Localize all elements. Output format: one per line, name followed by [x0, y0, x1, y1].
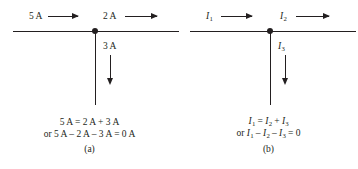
branch-current-arrow-icon	[110, 55, 111, 79]
junction-node-dot	[267, 28, 273, 34]
equation-line-1: 5 A = 2 A + 3 A	[0, 117, 179, 129]
outgoing-current-label: 2 A	[103, 12, 116, 22]
vertical-branch-wire	[95, 31, 96, 105]
vertical-branch-wire	[270, 31, 271, 105]
outgoing-current-label: I2	[280, 12, 287, 22]
junction-node-dot	[92, 28, 98, 34]
outgoing-current-arrow-icon	[296, 16, 329, 17]
branch-current-label: 3 A	[103, 42, 116, 52]
incoming-current-label: I1	[206, 12, 213, 22]
equation-line-2: or I1 – I2 – I3 = 0	[179, 128, 358, 140]
branch-current-label: I3	[278, 42, 285, 52]
outgoing-current-arrow-icon	[125, 16, 157, 17]
panel-a: 5 A 2 A 3 A 5 A = 2 A + 3 A or 5 A – 2 A…	[0, 0, 179, 169]
panel-b: I1 I2 I3 I1 = I2 + I3 or I1 – I2 – I3 = …	[179, 0, 358, 169]
kirchhoff-current-law-figure: 5 A 2 A 3 A 5 A = 2 A + 3 A or 5 A – 2 A…	[0, 0, 358, 169]
incoming-current-arrow-icon	[48, 16, 78, 17]
panel-tag-a: (a)	[0, 144, 179, 155]
panel-tag-b: (b)	[179, 144, 358, 155]
equation-line-1: I1 = I2 + I3	[179, 116, 358, 128]
branch-current-arrow-icon	[285, 55, 286, 79]
horizontal-wire	[190, 31, 356, 32]
incoming-current-label: 5 A	[29, 12, 42, 22]
incoming-current-arrow-icon	[221, 16, 252, 17]
equation-line-2: or 5 A – 2 A – 3 A = 0 A	[0, 129, 179, 141]
